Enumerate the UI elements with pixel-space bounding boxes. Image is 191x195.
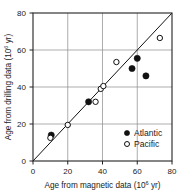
- x-tick-label-60: 60: [133, 167, 142, 176]
- x-axis-label-base: Age from magnetic data (10: [45, 181, 146, 190]
- y-axis-label: Age from drilling data (106 yr): [3, 34, 13, 141]
- x-tick-label-20: 20: [63, 167, 72, 176]
- legend-marker-pacific: [125, 142, 130, 147]
- y-axis-label-base: Age from drilling data (10: [4, 48, 13, 140]
- x-tick-label-40: 40: [98, 167, 107, 176]
- legend-marker-atlantic: [124, 130, 129, 135]
- legend-label-pacific: Pacific: [134, 139, 160, 149]
- y-axis-label-tail: yr): [4, 34, 13, 46]
- x-tick-label-80: 80: [168, 167, 177, 176]
- x-tick-label-0: 0: [31, 167, 36, 176]
- y-tick-label-80: 80: [17, 9, 26, 18]
- y-tick-label-20: 20: [17, 120, 26, 129]
- x-axis-label-tail: yr): [149, 181, 161, 190]
- data-point-atlantic-1: [86, 99, 92, 105]
- x-axis-label: Age from magnetic data (106 yr): [45, 180, 161, 190]
- legend-label-atlantic: Atlantic: [134, 128, 163, 138]
- data-point-pacific-0: [48, 135, 53, 140]
- data-point-atlantic-3: [134, 55, 140, 61]
- x-tick-labels: 0 20 40 60 80: [31, 167, 177, 176]
- data-point-pacific-5: [114, 59, 119, 64]
- y-tick-label-40: 40: [17, 83, 26, 92]
- data-point-atlantic-2: [129, 65, 135, 71]
- data-point-atlantic-4: [143, 73, 149, 79]
- data-point-pacific-1: [65, 122, 70, 127]
- y-tick-labels: 0 20 40 60 80: [17, 9, 26, 166]
- y-tick-label-0: 0: [22, 157, 27, 166]
- data-point-pacific-4: [101, 83, 106, 88]
- data-point-pacific-2: [93, 99, 98, 104]
- data-point-pacific-6: [157, 35, 162, 40]
- y-tick-label-60: 60: [17, 46, 26, 55]
- scatter-chart-figure: 0 20 40 60 80 0 20 40 60 80 Age from mag…: [0, 0, 191, 195]
- chart-canvas: 0 20 40 60 80 0 20 40 60 80 Age from mag…: [0, 0, 191, 195]
